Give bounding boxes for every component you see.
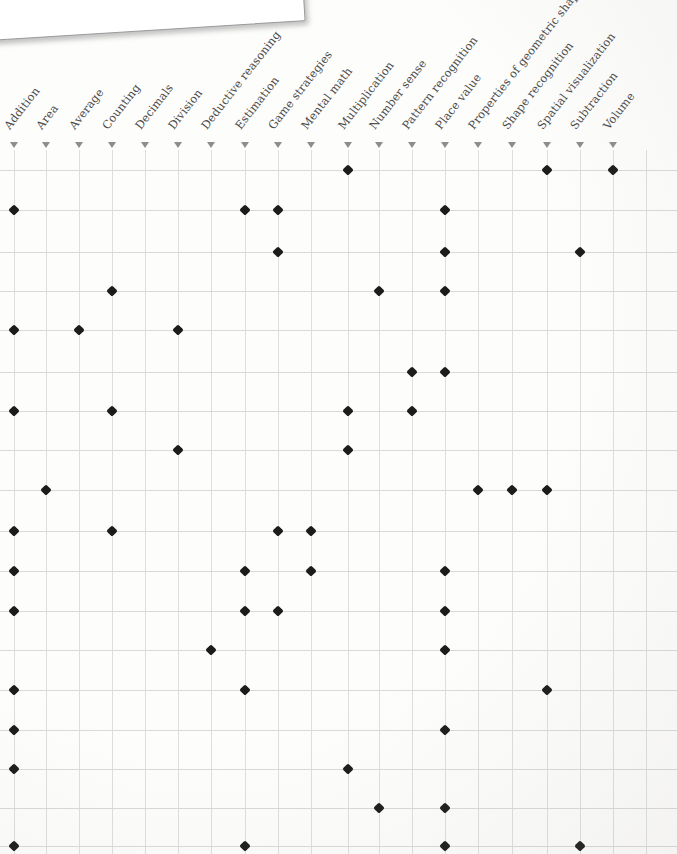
matrix-marker xyxy=(439,204,450,215)
matrix-marker xyxy=(506,484,517,495)
matrix-marker xyxy=(272,605,283,616)
matrix-marker xyxy=(172,324,183,335)
grid-vline xyxy=(245,150,246,854)
matrix-marker xyxy=(373,285,384,296)
column-header-properties-of-geometric-shapes: Properties of geometric shapes xyxy=(466,0,589,132)
skills-matrix-grid xyxy=(0,150,677,854)
matrix-marker xyxy=(574,246,585,257)
column-pointer-triangle-icon xyxy=(375,142,383,148)
matrix-marker xyxy=(8,684,19,695)
column-pointer-triangle-icon xyxy=(141,142,149,148)
matrix-marker xyxy=(8,204,19,215)
matrix-marker xyxy=(406,405,417,416)
grid-vline xyxy=(379,150,380,854)
matrix-marker xyxy=(439,840,450,851)
matrix-marker xyxy=(272,525,283,536)
grid-vline xyxy=(311,150,312,854)
matrix-marker xyxy=(8,525,19,536)
matrix-marker xyxy=(8,840,19,851)
matrix-marker xyxy=(373,802,384,813)
matrix-marker xyxy=(8,565,19,576)
matrix-marker xyxy=(607,164,618,175)
grid-hline xyxy=(0,450,677,451)
matrix-marker xyxy=(439,644,450,655)
grid-hline xyxy=(0,210,677,211)
grid-vline xyxy=(478,150,479,854)
column-pointer-triangle-icon xyxy=(174,142,182,148)
matrix-marker xyxy=(172,444,183,455)
grid-hline xyxy=(0,611,677,612)
column-pointer-triangle-icon xyxy=(508,142,516,148)
grid-vline xyxy=(79,150,80,854)
matrix-marker xyxy=(8,405,19,416)
matrix-marker xyxy=(106,525,117,536)
grid-hline xyxy=(0,571,677,572)
column-header-area: Area xyxy=(34,102,61,132)
column-pointer-triangle-icon xyxy=(10,142,18,148)
matrix-marker xyxy=(239,605,250,616)
matrix-marker xyxy=(406,366,417,377)
matrix-marker xyxy=(541,164,552,175)
grid-hline xyxy=(0,769,677,770)
grid-vline xyxy=(112,150,113,854)
grid-vline xyxy=(547,150,548,854)
column-header-number-sense: Number sense xyxy=(367,57,429,132)
matrix-marker xyxy=(305,525,316,536)
matrix-marker xyxy=(439,605,450,616)
column-pointer-triangle-icon xyxy=(75,142,83,148)
matrix-marker xyxy=(342,405,353,416)
matrix-marker xyxy=(342,763,353,774)
column-pointer-triangle-icon xyxy=(344,142,352,148)
column-pointer-triangle-icon xyxy=(241,142,249,148)
matrix-marker xyxy=(8,324,19,335)
column-pointer-triangle-icon xyxy=(274,142,282,148)
matrix-marker xyxy=(439,565,450,576)
grid-hline xyxy=(0,330,677,331)
grid-hline xyxy=(0,650,677,651)
column-pointer-triangle-icon xyxy=(543,142,551,148)
matrix-marker xyxy=(8,605,19,616)
matrix-marker xyxy=(205,644,216,655)
column-pointer-triangle-icon xyxy=(609,142,617,148)
matrix-marker xyxy=(272,246,283,257)
grid-vline xyxy=(613,150,614,854)
grid-vline xyxy=(512,150,513,854)
grid-hline xyxy=(0,411,677,412)
grid-hline xyxy=(0,531,677,532)
grid-hline xyxy=(0,372,677,373)
matrix-marker xyxy=(8,763,19,774)
matrix-marker xyxy=(239,565,250,576)
column-pointer-triangle-icon xyxy=(207,142,215,148)
grid-vline xyxy=(211,150,212,854)
matrix-marker xyxy=(439,802,450,813)
matrix-marker xyxy=(439,724,450,735)
grid-hline xyxy=(0,730,677,731)
scanned-page: to your curriculum. AdditionAreaAverageC… xyxy=(0,0,677,854)
matrix-marker xyxy=(342,444,353,455)
matrix-marker xyxy=(272,204,283,215)
grid-vline xyxy=(145,150,146,854)
grid-vline xyxy=(14,150,15,854)
grid-hline xyxy=(0,490,677,491)
column-pointer-triangle-icon xyxy=(42,142,50,148)
matrix-marker xyxy=(541,684,552,695)
column-pointer-triangle-icon xyxy=(408,142,416,148)
column-pointer-triangle-icon xyxy=(576,142,584,148)
matrix-marker xyxy=(305,565,316,576)
matrix-marker xyxy=(574,840,585,851)
matrix-marker xyxy=(73,324,84,335)
grid-vline xyxy=(178,150,179,854)
matrix-marker xyxy=(106,405,117,416)
matrix-marker xyxy=(239,684,250,695)
column-headers: AdditionAreaAverageCountingDecimalsDivis… xyxy=(0,0,677,150)
grid-hline xyxy=(0,690,677,691)
grid-vline xyxy=(46,150,47,854)
column-pointer-triangle-icon xyxy=(307,142,315,148)
matrix-marker xyxy=(40,484,51,495)
grid-hline xyxy=(0,808,677,809)
matrix-marker xyxy=(541,484,552,495)
matrix-marker xyxy=(472,484,483,495)
column-pointer-triangle-icon xyxy=(108,142,116,148)
grid-vline xyxy=(646,150,647,854)
matrix-marker xyxy=(439,246,450,257)
